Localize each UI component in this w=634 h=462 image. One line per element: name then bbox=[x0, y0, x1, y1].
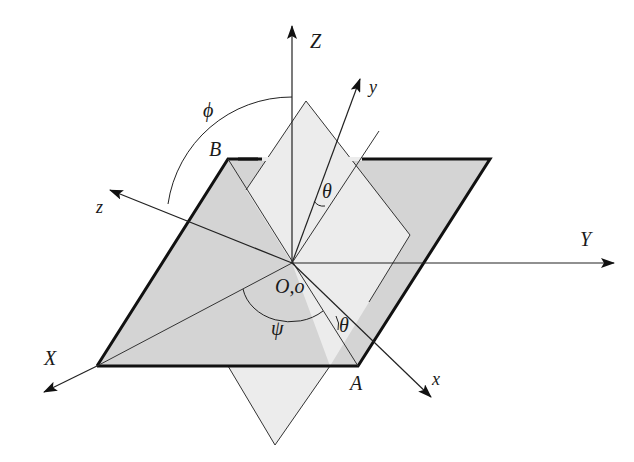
label-y-axis: y bbox=[367, 77, 377, 97]
label-point-A: A bbox=[348, 372, 363, 394]
label-angle-theta-upper: θ bbox=[322, 180, 332, 202]
euler-angle-diagram: Z Y X y z x B A O,o ϕ ψ θ θ bbox=[0, 0, 634, 462]
label-X-axis: X bbox=[43, 347, 57, 369]
label-angle-psi: ψ bbox=[271, 317, 284, 340]
label-origin: O,o bbox=[275, 275, 304, 297]
label-x-axis: x bbox=[431, 369, 440, 389]
label-angle-theta-lower: θ bbox=[339, 314, 349, 336]
label-z-axis: z bbox=[95, 197, 103, 217]
label-point-B: B bbox=[209, 138, 221, 160]
label-Z-axis: Z bbox=[310, 30, 322, 52]
label-angle-phi: ϕ bbox=[203, 99, 213, 122]
label-Y-axis: Y bbox=[580, 228, 593, 250]
rotated-plane-lower bbox=[228, 366, 330, 445]
X-axis bbox=[44, 366, 97, 392]
